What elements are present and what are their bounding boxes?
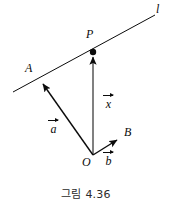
point-label-p: P [86, 28, 93, 40]
figure-container: P A O B l x a b 그림 4.36 [0, 0, 172, 207]
vector-letter-b: b [103, 155, 114, 167]
point-p-dot [90, 49, 96, 55]
vector-letter-a: a [48, 123, 59, 135]
vector-label-a: a [48, 118, 59, 135]
line-label-l: l [156, 3, 159, 15]
point-label-o: O [82, 156, 91, 168]
vector-arrow-overline-b [103, 150, 114, 155]
point-label-b: B [124, 126, 131, 138]
point-label-a: A [25, 62, 32, 74]
figure-caption: 그림 4.36 [0, 185, 172, 201]
vector-letter-x: x [103, 98, 114, 110]
vector-label-x: x [103, 93, 114, 110]
line-l [13, 15, 155, 92]
vector-label-b: b [103, 150, 114, 167]
vector-arrow-overline-x [103, 93, 114, 98]
vector-arrow-overline-a [48, 118, 59, 123]
